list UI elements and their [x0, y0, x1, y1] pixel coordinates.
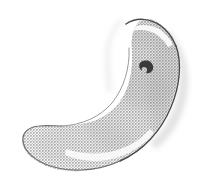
illustration-canvas — [0, 0, 212, 190]
illustration-svg — [0, 0, 212, 190]
